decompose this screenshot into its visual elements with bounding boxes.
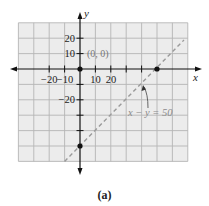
x-tick-label: −10	[57, 74, 73, 85]
y-axis-up-arrow-icon	[78, 12, 83, 19]
figure-caption: (a)	[0, 188, 209, 203]
grid-background	[18, 23, 187, 162]
x-axis-label: x	[192, 71, 198, 83]
graph: −20 −10 10 20 20 10 −20 (0, 0) x y x − y…	[0, 0, 209, 206]
point-y-intercept	[77, 143, 82, 148]
point-origin	[77, 66, 82, 71]
equation-label: x − y = 50	[127, 107, 173, 118]
x-tick-label: 20	[106, 74, 117, 85]
y-tick-label: 10	[65, 48, 76, 59]
y-tick-label: −20	[59, 94, 75, 105]
y-axis-label: y	[83, 7, 89, 19]
y-axis-down-arrow-icon	[78, 168, 83, 175]
x-axis-left-arrow-icon	[10, 67, 17, 72]
x-tick-label: 10	[90, 74, 101, 85]
point-x-intercept	[154, 66, 159, 71]
origin-label: (0, 0)	[87, 48, 109, 60]
y-tick-label: 20	[65, 33, 76, 44]
x-tick-label: −20	[41, 74, 57, 85]
